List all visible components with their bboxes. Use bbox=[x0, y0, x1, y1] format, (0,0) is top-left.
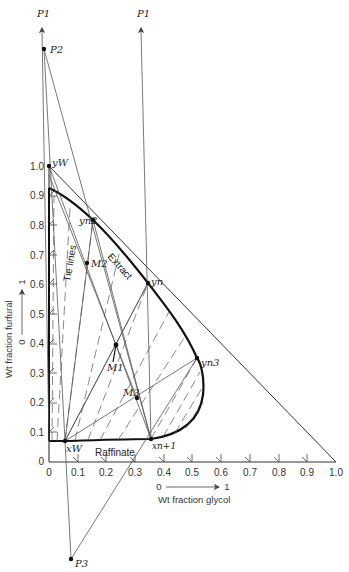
svg-text:0.1: 0.1 bbox=[71, 467, 85, 478]
point-yn3 bbox=[195, 356, 199, 360]
tie-lines bbox=[52, 196, 203, 441]
svg-text:yn2: yn2 bbox=[78, 215, 97, 226]
svg-text:0.9: 0.9 bbox=[30, 190, 44, 201]
svg-text:0.2: 0.2 bbox=[99, 467, 113, 478]
svg-text:xn+1: xn+1 bbox=[152, 441, 176, 451]
y-axis-label-group: Wt fraction furfural bbox=[3, 300, 14, 378]
svg-text:0.3: 0.3 bbox=[128, 467, 142, 478]
x-tick-labels: 0 0.1 0.2 0.3 0.4 0.5 0.6 0.7 0.8 0.9 1.… bbox=[46, 467, 343, 478]
svg-text:0.5: 0.5 bbox=[185, 467, 199, 478]
x-axis-label-group: 0 1 Wt fraction glycol bbox=[156, 481, 230, 505]
svg-text:0.6: 0.6 bbox=[214, 467, 228, 478]
svg-text:P1: P1 bbox=[136, 8, 150, 19]
svg-text:0.9: 0.9 bbox=[300, 467, 314, 478]
svg-text:0.2: 0.2 bbox=[30, 397, 44, 408]
svg-text:0.7: 0.7 bbox=[30, 250, 44, 261]
svg-text:1: 1 bbox=[16, 279, 27, 284]
svg-text:0: 0 bbox=[46, 467, 52, 478]
svg-text:0.4: 0.4 bbox=[30, 338, 44, 349]
y-axis-direction: 0 1 bbox=[16, 279, 27, 344]
tie-lines-label: Tie lines bbox=[61, 244, 78, 282]
svg-text:0.6: 0.6 bbox=[30, 279, 44, 290]
svg-text:0: 0 bbox=[16, 339, 27, 344]
point-yW bbox=[47, 164, 51, 168]
y-tick-labels: 0 0.1 0.2 0.3 0.4 0.5 0.6 0.7 0.8 0.9 1.… bbox=[30, 161, 44, 467]
raffinate-label: Raffinate bbox=[95, 447, 135, 458]
svg-text:0.8: 0.8 bbox=[30, 220, 44, 231]
svg-text:M2: M2 bbox=[90, 258, 108, 269]
svg-text:0.5: 0.5 bbox=[30, 309, 44, 320]
points bbox=[42, 47, 199, 561]
svg-text:M1: M1 bbox=[106, 362, 124, 373]
svg-text:0.8: 0.8 bbox=[272, 467, 286, 478]
point-yn bbox=[146, 281, 150, 285]
svg-text:P3: P3 bbox=[74, 558, 88, 569]
svg-text:P1: P1 bbox=[36, 8, 50, 19]
svg-text:xW: xW bbox=[66, 443, 83, 454]
svg-text:yW: yW bbox=[51, 157, 69, 168]
triangle-frame bbox=[49, 166, 336, 462]
ternary-diagram: 0 0.1 0.2 0.3 0.4 0.5 0.6 0.7 0.8 0.9 1.… bbox=[0, 0, 349, 572]
point-M2 bbox=[85, 261, 89, 265]
point-P2 bbox=[42, 47, 46, 51]
svg-text:M3: M3 bbox=[122, 387, 140, 398]
svg-text:1.0: 1.0 bbox=[30, 161, 44, 172]
svg-text:yn3: yn3 bbox=[200, 357, 219, 368]
svg-text:0: 0 bbox=[38, 456, 44, 467]
svg-text:yn: yn bbox=[150, 276, 163, 287]
svg-text:1.0: 1.0 bbox=[329, 467, 343, 478]
svg-text:0.7: 0.7 bbox=[243, 467, 257, 478]
svg-text:0.4: 0.4 bbox=[157, 467, 171, 478]
x-axis-label: Wt fraction glycol bbox=[158, 494, 230, 505]
point-P3 bbox=[69, 557, 73, 561]
svg-text:0.3: 0.3 bbox=[30, 368, 44, 379]
svg-text:0: 0 bbox=[156, 481, 161, 492]
svg-text:1: 1 bbox=[224, 481, 229, 492]
point-labels: P1 P1 P2 yW yn2 M2 yn M1 yn3 M3 xW xn+1 … bbox=[36, 8, 219, 569]
svg-text:0.1: 0.1 bbox=[30, 427, 44, 438]
binodal-curve bbox=[49, 188, 203, 441]
y-axis-label: Wt fraction furfural bbox=[3, 300, 14, 378]
svg-text:P2: P2 bbox=[49, 44, 63, 55]
extract-label: Extract bbox=[106, 251, 135, 282]
